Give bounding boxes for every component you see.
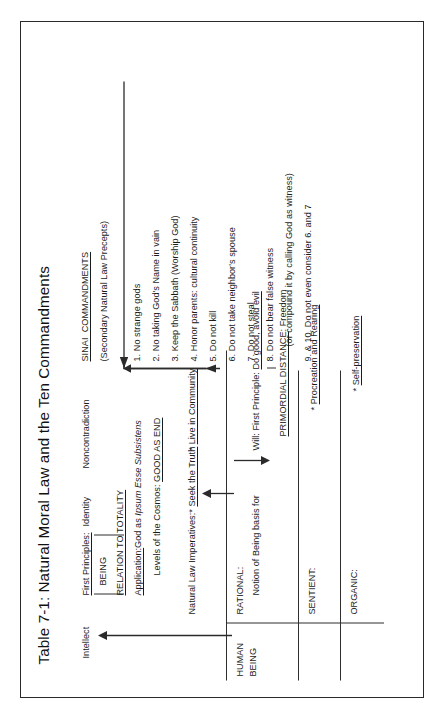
figure-frame: Table 7-1: Natural Moral Law and the Ten… (20, 21, 424, 698)
levels-of-cosmos-row: Levels of the Cosmos: GOOD AS END (153, 417, 163, 575)
application-row: Application:God as Ipsum Esse Subsistens (134, 420, 144, 595)
commandment-4: 4. Honor parents: cultural continuity (190, 216, 200, 361)
sentient-imperative: Procreation and Rearing (309, 304, 319, 404)
imperative-seek-the-truth: Seek the Truth (187, 446, 197, 506)
commandment-2: 2. No taking God's Name in vain (152, 229, 162, 361)
arrow-to-natural-law-imperatives (202, 489, 234, 498)
organic-label: ORGANIC: (350, 569, 360, 614)
rotated-figure-stage: Table 7-1: Natural Moral Law and the Ten… (20, 21, 424, 698)
arrow-to-intellect (98, 631, 232, 640)
divider-sentient-top (298, 370, 299, 680)
figure-canvas: Table 7-1: Natural Moral Law and the Ten… (20, 21, 424, 698)
commandment-1: 1. No strange gods (133, 283, 143, 361)
imperative-live-in-community: Live in Community (187, 368, 197, 444)
primordial-distance-label: PRIMORDIAL DISTANCE (278, 331, 288, 436)
sentient-imperative-star: * (309, 404, 319, 410)
levels-label: Levels of the Cosmos: (152, 481, 162, 575)
commandment-6: 6. Do not take neighbor's spouse (228, 227, 238, 361)
arrow-head-community (123, 364, 220, 372)
relation-to-totality-label: RELATION TO TOTALITY (116, 489, 126, 595)
divider-human-being-vertical (226, 622, 384, 623)
sinai-commandments-heading: SINAI COMMANDMENTS (81, 251, 91, 361)
divider-organic-top (340, 370, 341, 680)
will-label: Will: First Principle: (251, 369, 261, 450)
being-label: BEING (99, 556, 109, 585)
application-label: Application: (133, 547, 143, 595)
imperative-2-star: * (187, 444, 197, 450)
organic-imperative: Self-preservation (351, 315, 361, 385)
levels-value: GOOD AS END (152, 417, 162, 481)
application-text: God as (133, 515, 143, 547)
imperative-2-row: * Live in Community (188, 368, 198, 450)
figure-title: Table 7-1: Natural Moral Law and the Ten… (36, 266, 52, 664)
rational-text: Notion of Being basis for (252, 495, 262, 595)
primordial-distance-row: PRIMORDIAL DISTANCE: Freedom (279, 289, 289, 436)
sentient-imperative-row: * Procreation and Rearing (310, 304, 320, 410)
arrow-to-will (234, 456, 270, 465)
principle-identity: Identity (82, 496, 92, 526)
commandment-3: 3. Keep the Sabbath (Worship God) (171, 215, 181, 361)
divider-rational-top (226, 350, 227, 680)
sentient-label: SENTIENT: (308, 567, 318, 614)
primordial-distance-value: : Freedom (278, 289, 288, 331)
human-being-line1: HUMAN (236, 642, 246, 676)
faculty-intellect-label: Intellect (82, 626, 92, 658)
natural-law-imperatives-row: Natural Law Imperatives:* Seek the Truth (188, 446, 198, 614)
commandment-5: 5. Do not kill (209, 310, 219, 361)
application-italic: Ipsum Esse Subsistens (133, 420, 143, 516)
rational-label: RATIONAL: (236, 566, 246, 614)
imperatives-label: Natural Law Imperatives: (187, 512, 197, 614)
will-tick (267, 367, 276, 368)
organic-imperative-row: * Self-preservation (352, 315, 362, 391)
commandment-8: 8. Do not bear false witness (266, 247, 276, 361)
will-row: Will: First Principle: Do good, avoid ev… (252, 291, 262, 450)
first-principles-label: First Principles: (82, 532, 92, 595)
will-first-principle: Do good, avoid evil (251, 291, 261, 369)
imperative-1-star: * (187, 506, 197, 512)
organic-imperative-star: * (351, 385, 361, 391)
human-being-line2: BEING (249, 647, 259, 676)
sinai-subheading: (Secondary Natural Law Precepts) (100, 220, 110, 361)
principle-noncontradiction: Noncontradiction (82, 399, 92, 468)
